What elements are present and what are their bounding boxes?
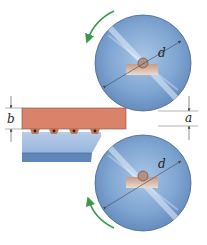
top-roller-axle — [138, 58, 148, 68]
feed-plate-bottom-strip — [22, 153, 92, 162]
feed-plate-body — [22, 132, 101, 153]
dimension-b: b — [5, 96, 22, 142]
metal-slab — [22, 108, 126, 129]
feed-plate — [22, 132, 101, 162]
rolling-mill-diagram: d d — [0, 0, 207, 245]
metal-slab-body — [22, 108, 126, 129]
top-roller-diameter-label: d — [158, 46, 166, 60]
bottom-roller: d — [95, 135, 191, 231]
bottom-roller-diameter-label: d — [158, 157, 166, 171]
dimension-a-label: a — [185, 111, 192, 125]
top-roller: d — [95, 15, 191, 111]
bottom-roller-axle — [138, 171, 148, 181]
dimension-b-label: b — [7, 112, 15, 126]
